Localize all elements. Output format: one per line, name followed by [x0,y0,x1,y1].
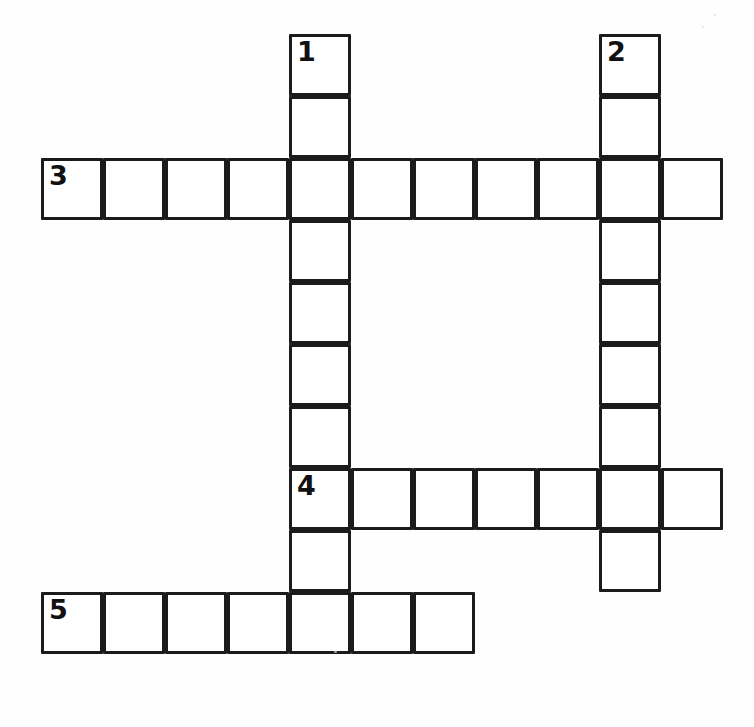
grid-cell[interactable] [165,592,227,654]
grid-cell[interactable] [599,158,661,220]
grid-cell[interactable] [537,158,599,220]
grid-cell[interactable]: 5 [41,592,103,654]
grid-cell[interactable] [289,282,351,344]
clue-number: 2 [607,38,625,66]
grid-cell[interactable] [289,96,351,158]
grid-cell[interactable] [103,592,165,654]
scan-speckle [714,14,716,16]
grid-cell[interactable] [599,468,661,530]
grid-cell[interactable] [599,96,661,158]
grid-cell[interactable] [227,592,289,654]
grid-cell[interactable] [599,406,661,468]
grid-cell[interactable] [165,158,227,220]
grid-cell[interactable] [289,592,351,654]
grid-cell[interactable] [475,468,537,530]
grid-cell[interactable] [661,468,723,530]
grid-cell[interactable] [537,468,599,530]
grid-cell[interactable] [413,592,475,654]
grid-cell[interactable] [599,282,661,344]
grid-cell[interactable] [103,158,165,220]
grid-cell[interactable] [351,468,413,530]
grid-cell[interactable] [413,158,475,220]
grid-cell[interactable] [289,220,351,282]
crossword-grid[interactable]: 12345 [0,0,754,727]
grid-cell[interactable] [289,158,351,220]
grid-cell[interactable]: 2 [599,34,661,96]
grid-cell[interactable] [599,220,661,282]
grid-cell[interactable]: 4 [289,468,351,530]
grid-cell[interactable] [413,468,475,530]
scan-speckle [702,26,704,28]
grid-cell[interactable]: 1 [289,34,351,96]
grid-cell[interactable] [351,158,413,220]
grid-cell[interactable] [661,158,723,220]
grid-cell[interactable] [599,344,661,406]
crossword-puzzle: 12345 [0,0,754,727]
grid-cell[interactable] [599,530,661,592]
grid-cell[interactable] [289,344,351,406]
clue-number: 4 [297,472,315,500]
grid-cell[interactable] [351,592,413,654]
scan-speckle [334,650,337,653]
grid-cell[interactable] [475,158,537,220]
clue-number: 3 [49,162,67,190]
grid-cell[interactable] [289,406,351,468]
clue-number: 5 [49,596,67,624]
grid-cell[interactable] [227,158,289,220]
clue-number: 1 [297,38,315,66]
grid-cell[interactable] [289,530,351,592]
grid-cell[interactable]: 3 [41,158,103,220]
